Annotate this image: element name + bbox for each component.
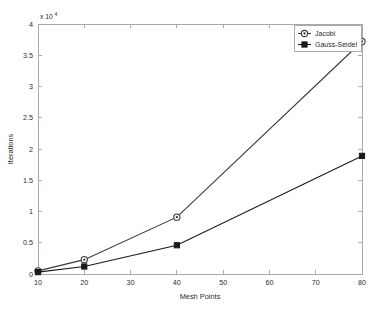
y-tick-label: 0.5 bbox=[23, 238, 33, 247]
series-line bbox=[38, 42, 362, 271]
x-tick-label: 10 bbox=[34, 278, 42, 287]
data-point-marker bbox=[302, 42, 307, 47]
line-chart: 102030405060708000.511.522.533.54x 104Me… bbox=[0, 0, 383, 317]
x-tick-label: 40 bbox=[173, 278, 181, 287]
y-exponent-label: x 10 bbox=[40, 13, 53, 20]
x-tick-label: 50 bbox=[219, 278, 227, 287]
y-tick-label: 1 bbox=[29, 207, 33, 216]
legend-label: Gauss-Seidel bbox=[315, 41, 357, 48]
y-tick-label: 2.5 bbox=[23, 113, 33, 122]
axes-box bbox=[38, 24, 362, 274]
y-tick-label: 4 bbox=[29, 20, 33, 29]
y-tick-label: 2 bbox=[29, 145, 33, 154]
series-jacobi bbox=[35, 38, 365, 274]
data-point-center bbox=[303, 32, 305, 34]
data-point-center bbox=[83, 258, 85, 260]
x-tick-label: 60 bbox=[265, 278, 273, 287]
legend-item-jacobi[interactable]: Jacobi bbox=[298, 30, 336, 37]
x-tick-label: 30 bbox=[127, 278, 135, 287]
y-axis-title: Iterations bbox=[6, 133, 15, 164]
y-tick-label: 1.5 bbox=[23, 176, 33, 185]
x-axis-title: Mesh Points bbox=[180, 292, 221, 301]
data-point-marker bbox=[174, 243, 179, 248]
data-point-marker bbox=[35, 270, 40, 275]
y-exponent-power: 4 bbox=[55, 11, 58, 17]
x-tick-label: 70 bbox=[312, 278, 320, 287]
data-point-center bbox=[176, 216, 178, 218]
data-point-marker bbox=[359, 153, 364, 158]
y-tick-label: 3.5 bbox=[23, 51, 33, 60]
legend-item-gauss-seidel[interactable]: Gauss-Seidel bbox=[298, 41, 357, 48]
series-line bbox=[38, 156, 362, 272]
x-tick-label: 80 bbox=[358, 278, 366, 287]
y-tick-label: 0 bbox=[29, 270, 33, 279]
legend-label: Jacobi bbox=[315, 30, 336, 37]
figure-canvas: 102030405060708000.511.522.533.54x 104Me… bbox=[0, 0, 383, 317]
y-tick-label: 3 bbox=[29, 82, 33, 91]
data-point-marker bbox=[82, 264, 87, 269]
x-tick-label: 20 bbox=[80, 278, 88, 287]
